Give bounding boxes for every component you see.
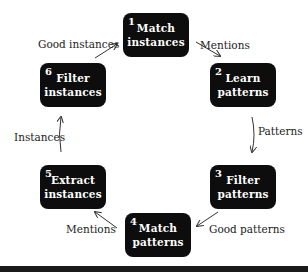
node-number: 1 [128, 16, 135, 27]
node-label-line2: instances [127, 35, 185, 49]
edge-label-mentions-top: Mentions [200, 39, 250, 51]
node-label-line2: instances [44, 187, 102, 201]
node-extract-instances: 5 Extract instances [40, 165, 106, 209]
node-number: 5 [45, 168, 52, 179]
node-label-line1: Filter [56, 71, 90, 85]
edge-label-mentions-bottom: Mentions [66, 223, 116, 235]
node-label-line2: patterns [217, 187, 268, 201]
edge-label-patterns: Patterns [258, 125, 303, 137]
node-label-line2: patterns [217, 85, 268, 99]
edge-label-good-patterns: Good patterns [209, 223, 285, 235]
node-filter-instances: 6 Filter instances [40, 63, 106, 107]
node-label-line1: Match [137, 21, 175, 35]
node-label-line1: Extract [51, 173, 95, 187]
node-label-line1: Learn [225, 71, 260, 85]
node-number: 3 [215, 168, 222, 179]
node-match-patterns: 4 Match patterns [125, 213, 191, 257]
node-filter-patterns: 3 Filter patterns [210, 165, 276, 209]
arrow-2-to-3 [252, 117, 254, 152]
node-number: 6 [45, 66, 52, 77]
node-label-line1: Filter [226, 173, 260, 187]
node-learn-patterns: 2 Learn patterns [210, 63, 276, 107]
edge-label-instances: Instances [14, 131, 65, 143]
node-match-instances: 1 Match instances [123, 13, 189, 57]
node-label-line2: instances [44, 85, 102, 99]
node-label-line1: Match [139, 221, 177, 235]
node-number: 2 [215, 66, 222, 77]
node-label-line2: patterns [132, 235, 183, 249]
node-number: 4 [130, 216, 137, 227]
edge-label-good-instances: Good instances [38, 38, 119, 50]
bottom-rule [0, 266, 308, 272]
